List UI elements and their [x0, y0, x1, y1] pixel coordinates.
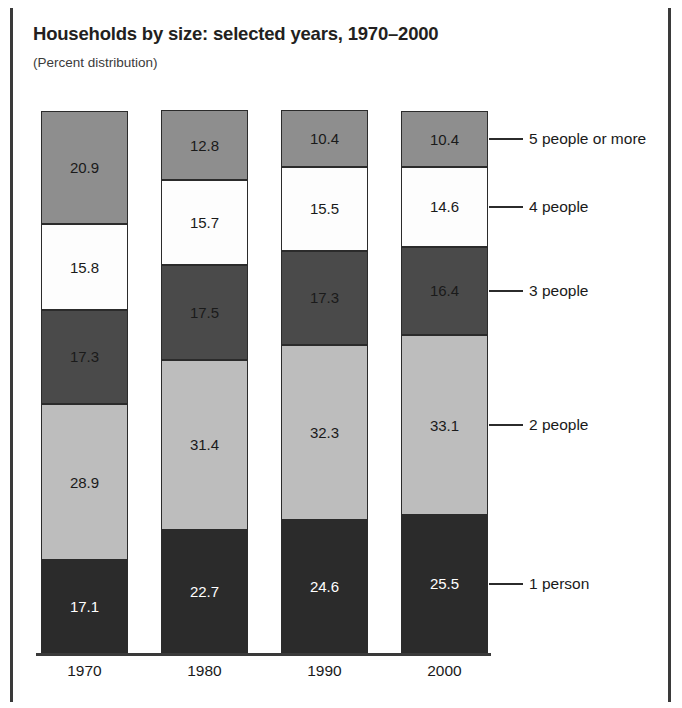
segment-value-label: 24.6: [310, 579, 339, 594]
legend-item-3-people: 3 people: [489, 283, 588, 299]
segment-value-label: 25.5: [430, 576, 459, 591]
legend-item-1-person: 1 person: [489, 576, 589, 592]
segment-value-label: 12.8: [190, 138, 219, 153]
legend-leader-line: [489, 206, 523, 208]
bar-column-2000: 25.533.116.414.610.4: [401, 111, 488, 653]
bar-segment-1970-two: 28.9: [41, 404, 128, 561]
bar-segment-2000-one: 25.5: [401, 515, 488, 653]
legend-label: 3 people: [529, 282, 588, 300]
x-axis-line: [36, 653, 491, 656]
x-axis-tick-1980: 1980: [161, 662, 248, 680]
legend-item-2-people: 2 people: [489, 417, 588, 433]
chart-figure: Households by size: selected years, 1970…: [0, 0, 682, 708]
plot-area: 17.128.917.315.820.922.731.417.515.712.8…: [41, 111, 489, 653]
bar-segment-2000-four: 14.6: [401, 167, 488, 246]
bar-segment-1970-one: 17.1: [41, 560, 128, 653]
bar-segment-1980-one: 22.7: [161, 530, 248, 653]
segment-value-label: 28.9: [70, 475, 99, 490]
segment-value-label: 10.4: [310, 131, 339, 146]
legend-leader-line: [489, 138, 523, 140]
segment-value-label: 17.3: [70, 349, 99, 364]
bar-segment-1970-four: 15.8: [41, 224, 128, 310]
segment-value-label: 15.7: [190, 215, 219, 230]
frame-border-right: [668, 8, 671, 702]
legend-label: 1 person: [529, 575, 589, 593]
bar-segment-2000-five-plus: 10.4: [401, 111, 488, 167]
segment-value-label: 17.5: [190, 305, 219, 320]
legend-leader-line: [489, 583, 523, 585]
legend-label: 5 people or more: [529, 130, 646, 148]
legend-item-5-people-or-more: 5 people or more: [489, 131, 646, 147]
bar-segment-1990-four: 15.5: [281, 167, 368, 251]
segment-value-label: 14.6: [430, 199, 459, 214]
x-axis-tick-1970: 1970: [41, 662, 128, 680]
bar-column-1980: 22.731.417.515.712.8: [161, 111, 248, 653]
legend-leader-line: [489, 290, 523, 292]
bar-column-1970: 17.128.917.315.820.9: [41, 111, 128, 653]
x-axis-tick-1990: 1990: [281, 662, 368, 680]
segment-value-label: 17.3: [310, 290, 339, 305]
bar-segment-1980-two: 31.4: [161, 360, 248, 530]
legend-item-4-people: 4 people: [489, 199, 588, 215]
legend-label: 2 people: [529, 416, 588, 434]
segment-value-label: 17.1: [70, 599, 99, 614]
bar-segment-2000-two: 33.1: [401, 335, 488, 514]
segment-value-label: 22.7: [190, 584, 219, 599]
segment-value-label: 33.1: [430, 418, 459, 433]
bar-segment-1970-three: 17.3: [41, 310, 128, 404]
bar-column-1990: 24.632.317.315.510.4: [281, 111, 368, 653]
frame-border-left: [10, 8, 13, 702]
segment-value-label: 32.3: [310, 425, 339, 440]
bar-segment-1990-five-plus: 10.4: [281, 110, 368, 166]
chart-subtitle: (Percent distribution): [33, 55, 158, 70]
bar-segment-1990-one: 24.6: [281, 520, 368, 653]
legend-leader-line: [489, 424, 523, 426]
segment-value-label: 15.5: [310, 201, 339, 216]
bar-segment-2000-three: 16.4: [401, 247, 488, 336]
legend-label: 4 people: [529, 198, 588, 216]
segment-value-label: 20.9: [70, 160, 99, 175]
bar-segment-1980-four: 15.7: [161, 180, 248, 265]
bar-segment-1980-three: 17.5: [161, 265, 248, 360]
bar-segment-1980-five-plus: 12.8: [161, 110, 248, 179]
bar-segment-1990-two: 32.3: [281, 345, 368, 520]
bar-segment-1970-five-plus: 20.9: [41, 111, 128, 224]
segment-value-label: 31.4: [190, 437, 219, 452]
bar-segment-1990-three: 17.3: [281, 251, 368, 345]
segment-value-label: 10.4: [430, 132, 459, 147]
chart-title: Households by size: selected years, 1970…: [33, 23, 438, 45]
segment-value-label: 15.8: [70, 260, 99, 275]
x-axis-tick-2000: 2000: [401, 662, 488, 680]
segment-value-label: 16.4: [430, 283, 459, 298]
